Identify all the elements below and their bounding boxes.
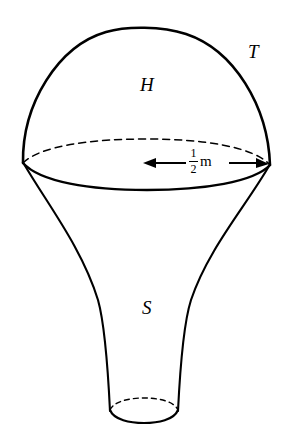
fraction-numerator: 1 xyxy=(190,147,198,160)
label-hemisphere-region: H xyxy=(140,75,154,94)
stem-right-outline xyxy=(178,166,269,411)
stem-left-outline xyxy=(24,164,110,411)
radius-dimension-label: 1 2 m xyxy=(187,147,214,175)
stem-base-front-arc xyxy=(110,410,178,423)
hemisphere-base-front-arc xyxy=(23,163,270,190)
one-half-fraction: 1 2 xyxy=(189,147,198,175)
label-stem-region: S xyxy=(142,298,152,317)
fraction-denominator: 2 xyxy=(190,163,198,176)
unit-label: m xyxy=(200,154,212,169)
hemisphere-dome-outline xyxy=(23,28,270,165)
stem-base-back-arc xyxy=(110,398,178,410)
radius-arrow-left-head xyxy=(143,158,156,168)
figure-canvas: H T S 1 2 m xyxy=(0,0,286,432)
hemisphere-base-back-arc xyxy=(23,139,270,165)
label-hemisphere-surface: T xyxy=(248,42,259,61)
solid-of-revolution-drawing xyxy=(0,0,286,432)
